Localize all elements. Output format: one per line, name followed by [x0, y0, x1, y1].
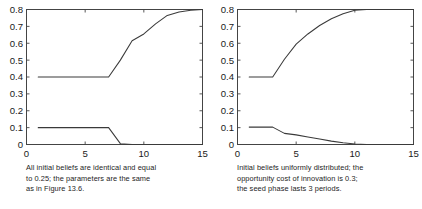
r-xtick-label: 0: [235, 148, 240, 159]
l-ytick-label: 0.7: [10, 21, 23, 32]
l-ytick-label: 0: [18, 139, 23, 150]
caption-right-line-1: Initial beliefs uniformly distributed; t…: [237, 163, 415, 174]
chart-left-svg: 00.10.20.30.40.50.60.70.8 051015: [0, 0, 211, 158]
caption-left-line-2: to 0.25; the parameters are the same: [26, 174, 204, 185]
caption-left-line-3: as in Figure 13.6.: [26, 184, 204, 195]
r-ytick-label: 0.8: [221, 4, 234, 15]
caption-left: All initial beliefs are identical and eq…: [26, 163, 204, 195]
caption-left-line-1: All initial beliefs are identical and eq…: [26, 163, 204, 174]
figure-pair: 00.10.20.30.40.50.60.70.8 051015 All ini…: [0, 0, 422, 209]
chart-right: 00.10.20.30.40.50.60.70.8 051015: [211, 0, 422, 158]
r-ytick-label: 0.7: [221, 21, 234, 32]
chart-left-yticklabels: 00.10.20.30.40.50.60.70.8: [10, 4, 24, 150]
l-ytick-label: 0.1: [10, 122, 23, 133]
l-ytick-label: 0.3: [10, 88, 23, 99]
r-xtick-label: 15: [408, 148, 419, 159]
r-xtick-label: 10: [349, 148, 360, 159]
r-ytick-label: 0.5: [221, 55, 234, 66]
l-xtick-label: 15: [197, 148, 208, 159]
chart-right-series-lower: [249, 127, 413, 144]
chart-right-series-upper: [249, 10, 413, 78]
caption-right: Initial beliefs uniformly distributed; t…: [237, 163, 415, 195]
l-ytick-label: 0.2: [10, 105, 23, 116]
l-xtick-label: 5: [82, 148, 87, 159]
panel-left: 00.10.20.30.40.50.60.70.8 051015 All ini…: [0, 0, 211, 209]
l-ytick-label: 0.5: [10, 55, 23, 66]
l-ytick-label: 0.6: [10, 38, 23, 49]
l-ytick-label: 0.4: [10, 71, 24, 82]
r-ytick-label: 0: [229, 139, 234, 150]
r-ytick-label: 0.1: [221, 122, 234, 133]
r-ytick-label: 0.4: [221, 71, 235, 82]
r-ytick-label: 0.6: [221, 38, 234, 49]
chart-left-series-upper: [38, 10, 202, 78]
chart-right-xticklabels: 051015: [235, 148, 419, 159]
chart-left: 00.10.20.30.40.50.60.70.8 051015: [0, 0, 211, 158]
panel-right: 00.10.20.30.40.50.60.70.8 051015 Initial…: [211, 0, 422, 209]
chart-right-yticklabels: 00.10.20.30.40.50.60.70.8: [221, 4, 235, 150]
l-xtick-label: 0: [24, 148, 29, 159]
chart-right-svg: 00.10.20.30.40.50.60.70.8 051015: [211, 0, 422, 158]
caption-right-line-2: opportunity cost of innovation is 0.3;: [237, 174, 415, 185]
r-ytick-label: 0.2: [221, 105, 234, 116]
chart-left-series-lower: [38, 128, 202, 145]
r-ytick-label: 0.3: [221, 88, 234, 99]
l-ytick-label: 0.8: [10, 4, 23, 15]
l-xtick-label: 10: [138, 148, 149, 159]
r-xtick-label: 5: [293, 148, 298, 159]
caption-right-line-3: the seed phase lasts 3 periods.: [237, 184, 415, 195]
chart-left-xticklabels: 051015: [24, 148, 208, 159]
